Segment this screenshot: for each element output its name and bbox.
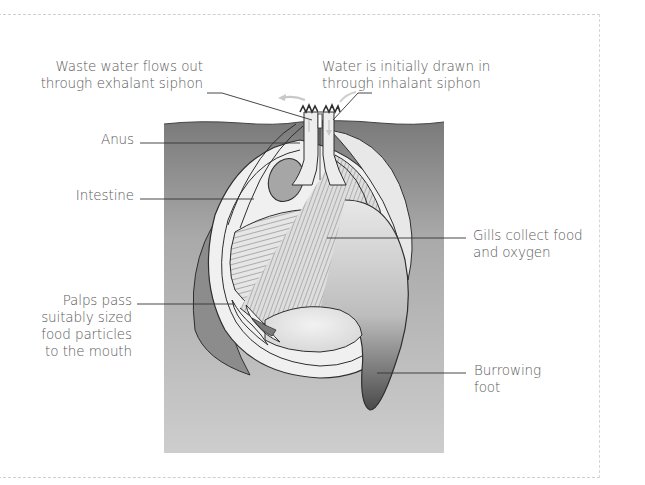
label-inhalant-siphon: Water is initially drawn in through inha…: [322, 58, 490, 92]
label-burrowing-foot: Burrowing foot: [474, 362, 541, 396]
label-palps: Palps pass suitably sized food particles…: [41, 292, 132, 360]
label-anus: Anus: [101, 131, 134, 148]
label-intestine: Intestine: [76, 187, 134, 204]
label-gills: Gills collect food and oxygen: [473, 227, 583, 261]
label-exhalant-siphon: Waste water flows out through exhalant s…: [41, 58, 203, 92]
